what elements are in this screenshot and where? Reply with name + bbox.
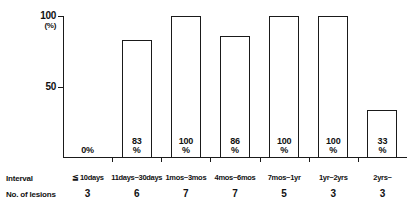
category-interval-label: 2yrs~ <box>355 173 409 182</box>
y-axis-unit-label: (%) <box>26 21 56 31</box>
category-interval-label: 7mos~1yr <box>257 173 311 182</box>
bar-chart: 100 (%) 50 0%83%100%86%100%100%33% Inter… <box>0 0 414 208</box>
bar-value-label: 86% <box>218 137 252 155</box>
bar-value-label: 100% <box>316 137 350 155</box>
y-axis-label-100: 100 <box>26 11 56 21</box>
category-lesion-count: 6 <box>110 188 164 199</box>
bar-value-percent-sign: % <box>169 146 203 155</box>
row-label-no-of-lesions: No. of lesions <box>6 190 56 199</box>
category-lesion-count: 3 <box>306 188 360 199</box>
bar-value-label: 100% <box>267 137 301 155</box>
plot-area: 0%83%100%86%100%100%33% <box>63 16 407 157</box>
bar-value-percent-sign: % <box>316 146 350 155</box>
category-interval-label: 1yr~2yrs <box>306 173 360 182</box>
bar-category-group: 0% <box>63 16 112 157</box>
x-axis-baseline <box>63 157 407 158</box>
bar-value-label: 83% <box>120 137 154 155</box>
bar-value-label: 0% <box>65 146 111 155</box>
bar-value-label: 33% <box>365 137 399 155</box>
category-lesion-count: 3 <box>61 188 115 199</box>
category-lesion-count: 5 <box>257 188 311 199</box>
bar-category-group: 100% <box>260 16 309 157</box>
y-axis-label-50: 50 <box>26 82 56 92</box>
bar-value-percent-sign: % <box>86 145 94 155</box>
bar-value-percent-sign: % <box>120 146 154 155</box>
category-lesion-count: 3 <box>355 188 409 199</box>
bar-value-percent-sign: % <box>267 146 301 155</box>
bar-value-percent-sign: % <box>218 146 252 155</box>
bar-category-group: 86% <box>210 16 259 157</box>
bar-category-group: 100% <box>161 16 210 157</box>
bar-category-group: 100% <box>309 16 358 157</box>
category-interval-label: 11days~30days <box>110 173 164 182</box>
bar-category-group: 33% <box>358 16 407 157</box>
row-label-interval: Interval <box>6 174 33 183</box>
bar-value-percent-sign: % <box>365 146 399 155</box>
bar-category-group: 83% <box>112 16 161 157</box>
category-lesion-count: 7 <box>159 188 213 199</box>
bar-value-label: 100% <box>169 137 203 155</box>
category-interval-label: 4mos~6mos <box>208 173 262 182</box>
category-lesion-count: 7 <box>208 188 262 199</box>
category-interval-label: ≦ 10days <box>61 173 115 182</box>
category-interval-label: 1mos~3mos <box>159 173 213 182</box>
